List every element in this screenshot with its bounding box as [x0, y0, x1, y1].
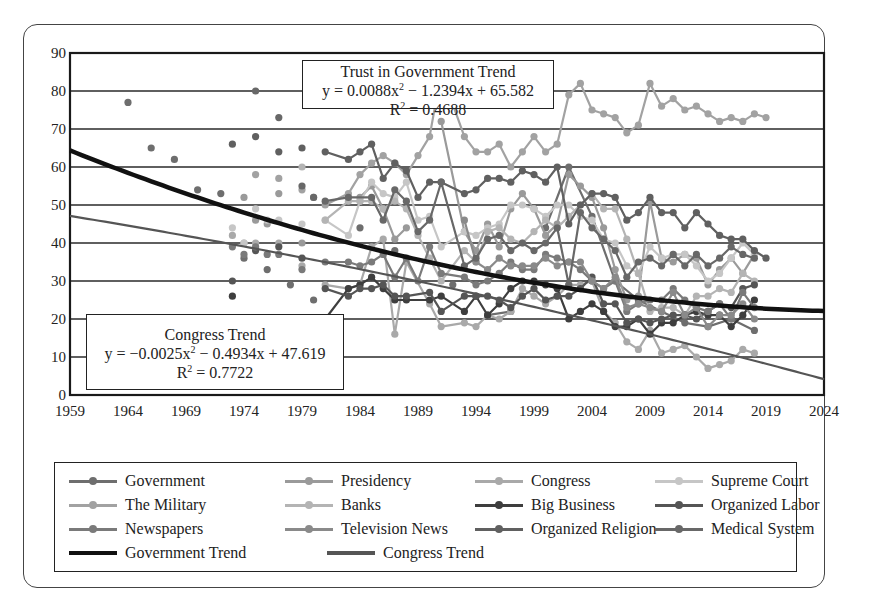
- x-tick-label: 1974: [229, 403, 260, 419]
- government-trend-r2: R2 = 0.4688: [303, 100, 553, 119]
- legend-swatch-icon: [69, 523, 117, 535]
- y-tick-label: 0: [59, 387, 67, 403]
- legend-item-organized-religion: Organized Religion: [475, 519, 656, 539]
- x-axis: 1959196419691974197919841989199419992004…: [55, 403, 840, 419]
- x-tick-label: 1994: [461, 403, 492, 419]
- government-trend-equation: y = 0.0088x2 − 1.2394x + 65.582: [303, 81, 553, 100]
- x-tick-label: 1969: [171, 403, 201, 419]
- series-banks: [298, 163, 758, 318]
- legend-swatch-icon: [285, 499, 333, 511]
- legend-item-supreme-court: Supreme Court: [655, 471, 808, 491]
- x-tick-label: 1959: [55, 403, 85, 419]
- y-tick-label: 20: [51, 311, 66, 327]
- legend-swatch-icon: [655, 523, 703, 535]
- legend-swatch-icon: [475, 499, 523, 511]
- chart-legend: GovernmentPresidencyCongressSupreme Cour…: [54, 462, 797, 572]
- legend-label: Big Business: [531, 496, 615, 514]
- legend-item-congress: Congress: [475, 471, 591, 491]
- legend-swatch-icon: [327, 547, 375, 559]
- y-tick-label: 10: [51, 349, 66, 365]
- congress-trend-equation: y = −0.0025x2 − 0.4934x + 47.619: [87, 344, 343, 363]
- government-trend-annotation: Trust in Government Trend y = 0.0088x2 −…: [302, 60, 554, 109]
- legend-label: Television News: [341, 520, 448, 538]
- legend-item-government-trend: Government Trend: [69, 543, 246, 563]
- y-tick-label: 90: [51, 45, 66, 61]
- legend-item-medical-system: Medical System: [655, 519, 815, 539]
- legend-label: Presidency: [341, 472, 411, 490]
- congress-trend-annotation: Congress Trend y = −0.0025x2 − 0.4934x +…: [86, 314, 344, 390]
- x-tick-label: 1999: [519, 403, 549, 419]
- x-tick-label: 2014: [693, 403, 724, 419]
- government-trend-title: Trust in Government Trend: [303, 62, 553, 81]
- x-tick-label: 1964: [113, 403, 144, 419]
- legend-label: Congress Trend: [383, 544, 484, 562]
- legend-item-government: Government: [69, 471, 205, 491]
- legend-item-television-news: Television News: [285, 519, 448, 539]
- legend-swatch-icon: [285, 475, 333, 487]
- legend-swatch-icon: [475, 523, 523, 535]
- legend-label: Newspapers: [125, 520, 203, 538]
- legend-item-the-military: The Military: [69, 495, 206, 515]
- congress-trend-title: Congress Trend: [87, 315, 343, 344]
- x-tick-label: 2024: [809, 403, 840, 419]
- legend-item-banks: Banks: [285, 495, 381, 515]
- legend-label: Organized Labor: [711, 496, 820, 514]
- legend-label: Banks: [341, 496, 381, 514]
- legend-swatch-icon: [655, 475, 703, 487]
- legend-item-organized-labor: Organized Labor: [655, 495, 820, 515]
- legend-item-big-business: Big Business: [475, 495, 615, 515]
- y-tick-label: 40: [51, 235, 66, 251]
- y-tick-label: 80: [51, 83, 66, 99]
- legend-item-newspapers: Newspapers: [69, 519, 203, 539]
- y-tick-label: 30: [51, 273, 66, 289]
- legend-label: Medical System: [711, 520, 815, 538]
- x-tick-label: 1984: [345, 403, 376, 419]
- x-tick-label: 1979: [287, 403, 317, 419]
- legend-item-congress-trend: Congress Trend: [327, 543, 484, 563]
- legend-label: Supreme Court: [711, 472, 808, 490]
- legend-swatch-icon: [475, 475, 523, 487]
- x-tick-label: 2009: [635, 403, 665, 419]
- x-tick-label: 2019: [751, 403, 781, 419]
- y-tick-label: 60: [51, 159, 66, 175]
- x-tick-label: 1989: [403, 403, 433, 419]
- legend-item-presidency: Presidency: [285, 471, 411, 491]
- y-axis: 0102030405060708090: [51, 45, 66, 403]
- congress-trend-r2: R2 = 0.7722: [87, 363, 343, 382]
- legend-swatch-icon: [69, 475, 117, 487]
- legend-label: Government: [125, 472, 205, 490]
- legend-swatch-icon: [655, 499, 703, 511]
- legend-label: Government Trend: [125, 544, 246, 562]
- legend-swatch-icon: [69, 499, 117, 511]
- y-tick-label: 70: [51, 121, 66, 137]
- x-tick-label: 2004: [577, 403, 608, 419]
- legend-swatch-icon: [285, 523, 333, 535]
- legend-label: Organized Religion: [531, 520, 656, 538]
- legend-swatch-icon: [69, 547, 117, 559]
- legend-label: Congress: [531, 472, 591, 490]
- y-tick-label: 50: [51, 197, 66, 213]
- legend-label: The Military: [125, 496, 206, 514]
